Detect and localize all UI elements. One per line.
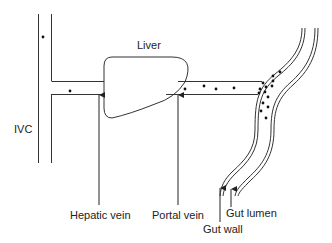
diagram-canvas: Liver IVC Hepatic vein Portal vein Gut l… [0, 0, 332, 243]
portal-vein-particles [184, 85, 236, 91]
ivc-label: IVC [14, 124, 32, 135]
hepatic-vein-label: Hepatic vein [70, 210, 131, 221]
ivc-particle [42, 36, 45, 39]
hepatic-vein-particle [69, 90, 72, 93]
liver-shape [104, 57, 188, 118]
gut-wall-label: Gut wall [203, 224, 243, 235]
hepatic-vein-vessel [52, 82, 105, 95]
gut-particles [258, 71, 282, 120]
gut-lumen-label: Gut lumen [226, 208, 277, 219]
diagram-drawing [0, 0, 332, 243]
portal-vein-label: Portal vein [152, 210, 204, 221]
ivc-vessel [39, 14, 52, 163]
liver-label: Liver [137, 40, 161, 51]
gut-tube [220, 28, 318, 196]
